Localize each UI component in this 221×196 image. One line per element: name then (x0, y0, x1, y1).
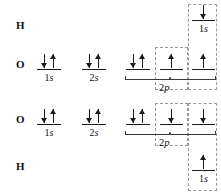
electron-arrow-down (200, 5, 207, 19)
electron-arrow-down (41, 54, 48, 68)
electron-arrow-up (95, 109, 102, 123)
electron-arrow-down (130, 109, 137, 123)
orbital-sublabel-o-upper-2s: 2s (82, 72, 106, 83)
atom-label-o-lower: O (16, 113, 25, 125)
electron-arrow-up (200, 155, 207, 169)
electron-arrow-up (95, 54, 102, 68)
electron-arrow-up (50, 109, 57, 123)
electron-arrow-up (200, 54, 207, 68)
orbital-set-label-o-upper-2p: 2p (159, 82, 170, 93)
electron-arrow-down (200, 109, 207, 123)
electron-arrow-down (168, 109, 175, 123)
electron-arrow-down (41, 109, 48, 123)
orbital-sublabel-h-top-1s: 1s (192, 23, 215, 34)
electron-arrow-up (50, 54, 57, 68)
orbital-sublabel-h-bottom-1s: 1s (192, 173, 215, 184)
electron-arrow-up (139, 54, 146, 68)
electron-arrow-down (130, 54, 137, 68)
atom-label-h-top: H (16, 19, 25, 31)
orbital-sublabel-o-lower-2s: 2s (82, 127, 106, 138)
orbital-set-label-o-lower-2p: 2p (159, 137, 170, 148)
atom-label-o-upper: O (16, 58, 25, 70)
orbital-sublabel-o-lower-1s: 1s (37, 127, 61, 138)
orbital-sublabel-o-upper-1s: 1s (37, 72, 61, 83)
electron-arrow-up (168, 54, 175, 68)
electron-arrow-up (139, 109, 146, 123)
orbital-diagram: H O O H 1s 1s 2s (0, 0, 221, 196)
electron-arrow-down (86, 109, 93, 123)
atom-label-h-bottom: H (16, 160, 25, 172)
electron-arrow-down (86, 54, 93, 68)
